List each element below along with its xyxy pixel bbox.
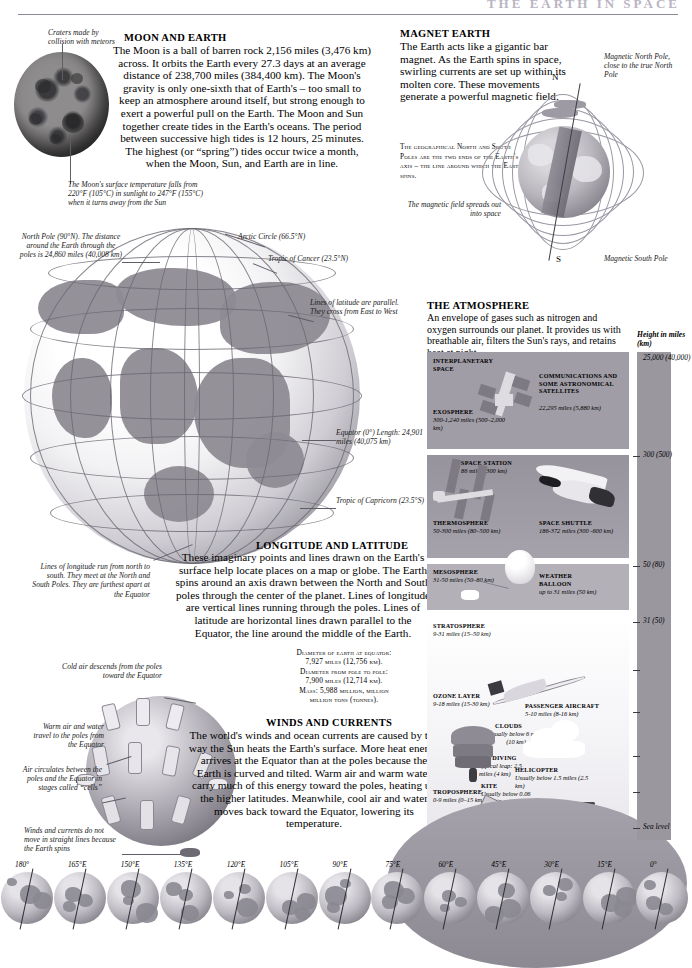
cloud-icon bbox=[551, 720, 579, 742]
scale-tick-label: Sea level bbox=[643, 823, 669, 832]
page-header-title: THE EARTH IN SPACE bbox=[487, 0, 680, 12]
wind-arrow bbox=[128, 742, 142, 774]
longitude-globe-item: 165°E bbox=[54, 872, 110, 928]
satellites-range: 22,295 miles (5,880 km) bbox=[539, 404, 621, 412]
thermosphere-range: 50-300 miles (80–500 km) bbox=[433, 527, 509, 535]
earth-facts-block: Diameter of earth at equator: 7,927 mile… bbox=[256, 648, 432, 704]
magnet-heading: MAGNET EARTH bbox=[400, 28, 490, 39]
moon-heading: MOON AND EARTH bbox=[124, 32, 226, 43]
wind-arrow bbox=[162, 745, 181, 777]
winds-body-text: The world's winds and ocean currents are… bbox=[188, 729, 440, 830]
space-shuttle-label: SPACE SHUTTLE bbox=[539, 519, 592, 527]
latitude-line bbox=[22, 372, 362, 420]
longitude-label: 15°E bbox=[597, 860, 612, 869]
exosphere-label: EXOSPHERE bbox=[433, 408, 473, 416]
height-scale-column: 25,000 (40,000) 300 (500) 50 (80) 31 (50… bbox=[637, 352, 671, 840]
landmass bbox=[455, 897, 467, 907]
leader-line bbox=[62, 44, 63, 80]
atmosphere-heading: THE ATMOSPHERE bbox=[427, 300, 529, 311]
scale-tick bbox=[633, 566, 640, 567]
moon-crater bbox=[71, 73, 83, 84]
longitude-globe-item: 90°E bbox=[319, 872, 375, 928]
winds-straight-lines-caption: Winds and currents do not move in straig… bbox=[24, 826, 120, 854]
magnetic-field-caption: The magnetic field spreads out into spac… bbox=[405, 200, 501, 218]
weather-balloon-range: up to 31 miles (50 km) bbox=[539, 588, 609, 596]
landmass bbox=[397, 888, 415, 904]
landmass bbox=[136, 903, 158, 923]
longitude-label: 75°E bbox=[385, 860, 400, 869]
landmass bbox=[7, 878, 17, 886]
landmass bbox=[63, 901, 76, 912]
scale-tick-label: 31 (50) bbox=[643, 617, 665, 626]
longitude-label: 60°E bbox=[438, 860, 453, 869]
longitude-label: 45°E bbox=[491, 860, 506, 869]
tropic-of-capricorn-caption: Tropic of Capricorn (23.5°S) bbox=[336, 496, 430, 505]
winds-heading: WINDS AND CURRENTS bbox=[266, 717, 392, 728]
scale-tick bbox=[633, 456, 640, 457]
helicopter-label: HELICOPTER bbox=[515, 766, 558, 774]
longitude-globe-item: 75°E bbox=[371, 872, 427, 928]
longitude-label: 90°E bbox=[333, 860, 348, 869]
fact-line: 7,927 miles (12,756 km). bbox=[256, 657, 432, 666]
longitude-globe-sphere bbox=[371, 872, 423, 924]
magnet-earth-diagram: N S bbox=[498, 78, 628, 268]
south-pole-label: S bbox=[556, 254, 561, 264]
latitude-line bbox=[30, 308, 354, 350]
landmass bbox=[485, 906, 504, 923]
weather-balloon-icon bbox=[505, 550, 535, 584]
landmass bbox=[556, 892, 567, 901]
latitude-line bbox=[50, 494, 334, 532]
longitude-label: 180° bbox=[15, 860, 29, 869]
atmosphere-panel-mesosphere: MESOSPHERE 31-50 miles (50–80 km) WEATHE… bbox=[427, 564, 629, 610]
landmass bbox=[659, 903, 673, 915]
scale-tick-label: 50 (80) bbox=[643, 561, 665, 570]
longitude-globe-item: 30°E bbox=[530, 872, 586, 928]
longitude-globe-item: 45°E bbox=[477, 872, 533, 928]
continent-shape bbox=[572, 156, 602, 182]
equator-caption: Equator (0°) Length: 24,901 miles (40,07… bbox=[336, 428, 436, 446]
longitude-latitude-body-text: These imaginary points and lines drawn o… bbox=[175, 551, 431, 639]
wind-arrow bbox=[101, 703, 121, 732]
wind-arrow bbox=[165, 703, 185, 732]
pole-disc bbox=[554, 100, 586, 109]
atmosphere-panel-thermosphere: SPACE STATION 86 miles (300 km) THERMOSP… bbox=[427, 455, 629, 558]
troposphere-label: TROPOSPHERE bbox=[433, 788, 482, 796]
leader-line bbox=[122, 262, 160, 263]
moon-temperature-caption: The Moon's surface temperature falls fro… bbox=[68, 180, 218, 208]
fact-line: Diameter of earth at equator: bbox=[256, 648, 432, 657]
warm-air-caption: Warm air and water travel to the poles f… bbox=[24, 722, 104, 750]
longitude-latitude-heading: LONGITUDE AND LATITUDE bbox=[256, 540, 408, 551]
continent-shape bbox=[528, 144, 554, 166]
atmosphere-panel-exosphere: INTERPLANETARY SPACE EXOSPHERE 300-1,240… bbox=[427, 352, 629, 449]
longitude-globe-item: 135°E bbox=[160, 872, 216, 928]
longitude-globe-item: 120°E bbox=[213, 872, 269, 928]
fact-line: Mass: 5,988 million, million bbox=[256, 686, 432, 695]
scale-tick-label: 300 (500) bbox=[643, 451, 672, 460]
longitude-globe-item: 60°E bbox=[424, 872, 480, 928]
moon-crater bbox=[50, 134, 61, 144]
north-pole-label: N bbox=[552, 72, 559, 82]
scale-tick bbox=[633, 792, 640, 793]
header-rule bbox=[18, 14, 678, 15]
stratosphere-range: 9-31 miles (15–50 km) bbox=[433, 630, 503, 638]
scale-tick bbox=[633, 828, 640, 829]
landmass bbox=[558, 878, 573, 891]
globe-sphere bbox=[24, 228, 360, 564]
height-scale-heading: Height in miles (km) bbox=[637, 330, 689, 348]
longitude-label: 105°E bbox=[280, 860, 299, 869]
longitude-label: 165°E bbox=[68, 860, 87, 869]
tropic-of-cancer-caption: Tropic of Cancer (23.5°N) bbox=[266, 254, 350, 263]
longitude-globe-item: 0° bbox=[636, 872, 692, 928]
landmass bbox=[295, 907, 310, 920]
moon-crater bbox=[35, 79, 51, 93]
scale-tick bbox=[633, 622, 640, 623]
fact-line: Diameter from pole to pole: bbox=[256, 667, 432, 676]
helicopter-range: Usually below 1.5 miles (2.5 km) bbox=[515, 774, 593, 789]
longitude-label: 0° bbox=[650, 860, 657, 869]
passenger-aircraft-range: 5-10 miles (8-16 km) bbox=[525, 710, 597, 718]
pole-disc bbox=[542, 108, 578, 118]
stratosphere-label: STRATOSPHERE bbox=[433, 622, 485, 630]
ozone-layer-label: OZONE LAYER bbox=[433, 692, 480, 700]
lines-of-longitude-caption: Lines of longitude run from north to sou… bbox=[32, 562, 150, 599]
